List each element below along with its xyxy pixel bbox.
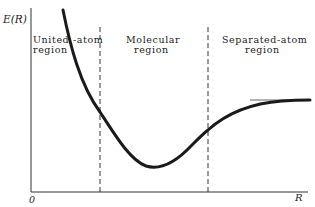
- x-axis-label: R: [295, 193, 303, 203]
- molecular-region-label-line2: region: [134, 45, 169, 54]
- separated-atom-region-label-line2: region: [245, 45, 280, 54]
- diagram-canvas: [0, 0, 315, 207]
- united-atom-region-label: United -atom: [33, 35, 103, 44]
- y-axis-label: E(R): [3, 14, 27, 24]
- origin-label: 0: [29, 195, 35, 205]
- molecular-region-label: Molecular: [126, 35, 180, 44]
- separated-atom-region-label: Separated-atom: [222, 35, 307, 44]
- united-atom-region-label-line2: region: [33, 45, 68, 54]
- energy-diagram: E(R) United -atom region Molecular regio…: [0, 0, 315, 207]
